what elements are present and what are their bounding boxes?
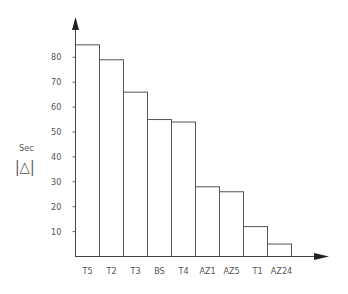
x-tick-label: AZ24 <box>271 266 292 276</box>
bar-t5 <box>76 45 100 257</box>
delta-symbol-icon: |△| <box>15 158 34 176</box>
y-axis-arrow-icon <box>72 17 79 30</box>
y-tick-label: 40 <box>51 152 61 162</box>
bar-t1 <box>244 227 268 257</box>
x-tick-label: T3 <box>129 266 140 276</box>
x-tick-label: T5 <box>81 266 92 276</box>
bar-t2 <box>100 60 124 257</box>
y-axis-label: Sec <box>19 143 34 153</box>
y-tick-label: 10 <box>51 227 61 237</box>
x-tick-label: BS <box>154 266 165 276</box>
bar-az5 <box>220 192 244 257</box>
bar-az1 <box>196 187 220 257</box>
bar-t3 <box>124 92 148 256</box>
x-tick-label: T1 <box>251 266 262 276</box>
x-tick-label: T4 <box>177 266 188 276</box>
y-tick-label: 30 <box>51 177 61 187</box>
y-tick-label: 80 <box>51 52 61 62</box>
bar-t4 <box>172 122 196 256</box>
bar-az24 <box>268 244 292 256</box>
bar-chart: 1020304050607080 T5T2T3BST4AZ1AZ5T1AZ24 … <box>0 0 348 294</box>
y-ticks-group: 1020304050607080 <box>51 52 76 236</box>
y-tick-label: 20 <box>51 202 61 212</box>
y-tick-label: 70 <box>51 77 61 87</box>
y-tick-label: 50 <box>51 127 61 137</box>
x-tick-label: AZ5 <box>223 266 239 276</box>
x-labels-group: T5T2T3BST4AZ1AZ5T1AZ24 <box>81 266 292 276</box>
x-tick-label: T2 <box>105 266 116 276</box>
x-tick-label: AZ1 <box>199 266 215 276</box>
y-tick-label: 60 <box>51 102 61 112</box>
bars-group <box>76 45 292 257</box>
x-axis-arrow-icon <box>314 253 329 260</box>
bar-bs <box>148 120 172 257</box>
